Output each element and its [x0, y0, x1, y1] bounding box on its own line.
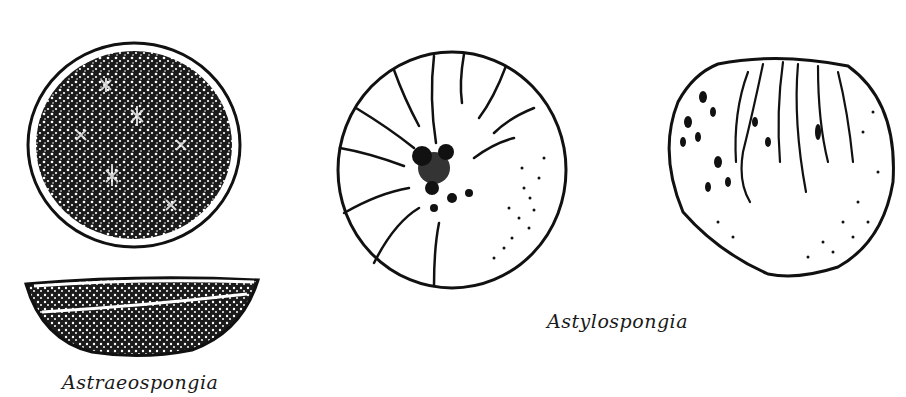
astylospongia-label: Astylospongia — [547, 310, 688, 332]
astraeospongia-label: Astraeospongia — [62, 371, 218, 393]
astylospongia-top-view — [334, 48, 570, 294]
astraeospongia-top-view — [26, 40, 246, 255]
astraeospongia-side-view — [22, 272, 262, 362]
astylospongia-side-view — [658, 52, 898, 284]
